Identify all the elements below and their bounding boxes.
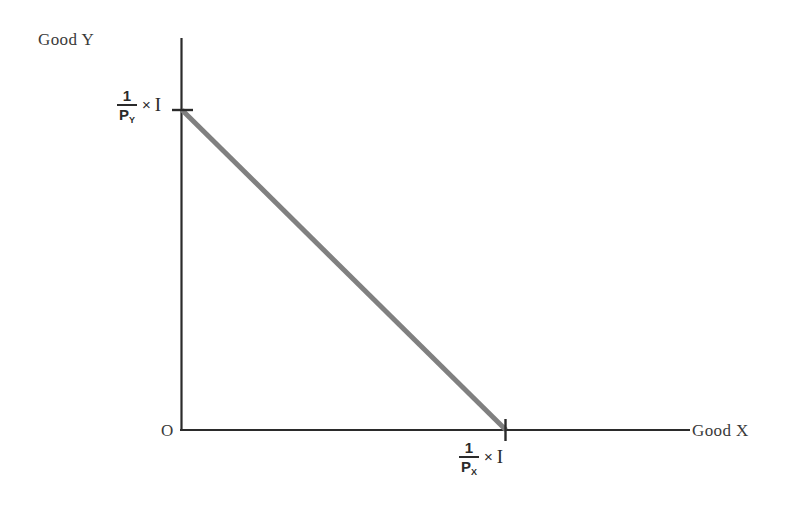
x-intercept-denominator-base: P (461, 458, 471, 475)
y-intercept-expression: 1 PY × I (117, 88, 161, 122)
origin-label: O (161, 421, 173, 441)
y-intercept-denominator-subscript: Y (129, 115, 135, 125)
x-intercept-denominator: PX (459, 458, 479, 474)
x-intercept-fraction: 1 PX (459, 440, 479, 474)
x-intercept-expression: 1 PX × I (459, 440, 503, 474)
y-intercept-denominator: PY (117, 106, 137, 122)
x-intercept-numerator: 1 (463, 440, 475, 456)
y-intercept-times-sign: × (142, 96, 151, 113)
y-intercept-fraction: 1 PY (117, 88, 137, 122)
budget-constraint-line (182, 110, 506, 430)
x-axis-label: Good X (692, 421, 749, 441)
y-axis-label: Good Y (38, 30, 94, 50)
x-intercept-income-symbol: I (497, 447, 503, 466)
budget-constraint-figure: Good Y Good X O 1 PY × I 1 PX × I (0, 0, 802, 524)
x-intercept-denominator-subscript: X (471, 467, 477, 477)
x-intercept-times-sign: × (484, 448, 493, 465)
y-intercept-numerator: 1 (121, 88, 133, 104)
y-intercept-income-symbol: I (155, 95, 161, 114)
y-intercept-denominator-base: P (119, 106, 129, 123)
plot-canvas (0, 0, 802, 524)
